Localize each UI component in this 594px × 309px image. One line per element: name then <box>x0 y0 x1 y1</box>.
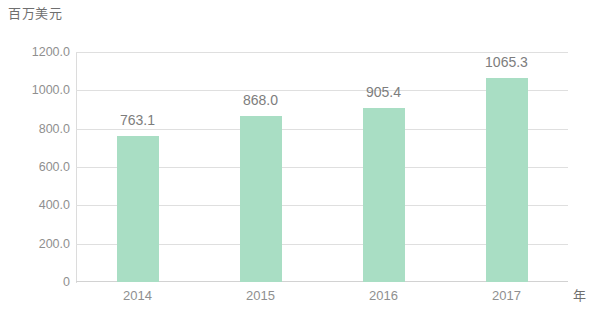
y-axis-tick-label: 800.0 <box>4 123 70 136</box>
bar <box>486 78 528 282</box>
y-axis-tick-label: 1000.0 <box>4 84 70 97</box>
x-axis-tick-label: 2017 <box>467 288 547 304</box>
bar-value-label: 868.0 <box>221 93 301 107</box>
y-axis-tick-label: 0 <box>4 276 70 289</box>
y-axis-tick-label: 200.0 <box>4 238 70 251</box>
x-axis-tick-labels: 2014201520162017 <box>76 288 568 308</box>
y-axis-tick-label: 1200.0 <box>4 46 70 59</box>
bar-value-label: 1065.3 <box>467 55 547 69</box>
x-axis-unit-label: 年 <box>573 288 586 304</box>
gridline <box>76 52 568 53</box>
bar-value-label: 905.4 <box>344 85 424 99</box>
y-axis-tick-label: 400.0 <box>4 199 70 212</box>
x-axis-tick-label: 2016 <box>344 288 424 304</box>
y-axis-tick-labels: 0200.0400.0600.0800.01000.01200.0 <box>0 52 70 282</box>
bar <box>240 116 282 282</box>
bar <box>363 108 405 282</box>
y-axis-unit-label: 百万美元 <box>8 6 62 22</box>
bar-value-label: 763.1 <box>98 113 178 127</box>
x-axis-tick-label: 2015 <box>221 288 301 304</box>
bar-chart: 百万美元 0200.0400.0600.0800.01000.01200.0 7… <box>0 0 594 309</box>
bar <box>117 136 159 282</box>
plot-area <box>76 52 568 282</box>
x-axis-tick-label: 2014 <box>98 288 178 304</box>
y-axis-tick-label: 600.0 <box>4 161 70 174</box>
